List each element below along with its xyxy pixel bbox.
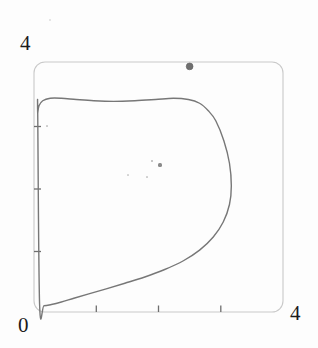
plot-area xyxy=(0,0,318,348)
figure-canvas: 4 0 4 xyxy=(0,0,318,348)
trajectory-curve xyxy=(38,98,232,319)
marked-data-point xyxy=(186,63,193,70)
x-axis-max-label: 4 xyxy=(290,303,301,324)
x-axis-ticks xyxy=(96,306,221,313)
origin-label: 0 xyxy=(18,315,29,336)
y-axis-max-label: 4 xyxy=(20,33,31,54)
